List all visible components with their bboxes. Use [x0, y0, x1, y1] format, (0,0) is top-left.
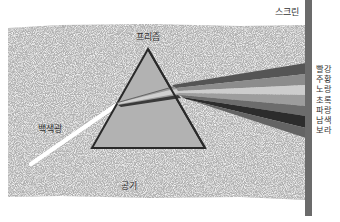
spectrum-label-violet: 보라	[316, 125, 340, 135]
spectrum-label-blue: 파랑	[316, 105, 340, 115]
spectrum-label-yellow: 노랑	[316, 84, 340, 94]
screen-bar	[305, 0, 312, 216]
spectrum-legend: 빨강 주황 노랑 초록 파랑 남색 보라	[316, 64, 340, 135]
spectrum-label-indigo: 남색	[316, 115, 340, 125]
prism-diagram	[0, 0, 340, 222]
prism-label: 프리즘	[136, 33, 160, 42]
white-light-label: 백색광	[38, 125, 62, 134]
spectrum-label-orange: 주황	[316, 74, 340, 84]
air-label: 공기	[121, 182, 137, 191]
spectrum-label-green: 초록	[316, 95, 340, 105]
spectrum-label-red: 빨강	[316, 64, 340, 74]
screen-label: 스크린	[275, 8, 299, 17]
